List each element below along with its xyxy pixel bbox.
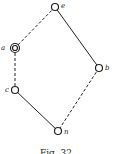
edge-c-n — [15, 90, 58, 131]
label-a: a — [1, 44, 5, 52]
edge-e-a — [15, 7, 55, 48]
node-c — [12, 87, 19, 94]
node-e — [52, 4, 59, 11]
label-b: b — [105, 64, 110, 72]
label-e: e — [61, 2, 65, 10]
node-a-inner — [13, 46, 18, 51]
edge-b-n — [58, 68, 99, 131]
label-n: n — [64, 128, 69, 136]
node-n — [55, 128, 62, 135]
lattice-diagram: e a b c n Fig. 32 — [0, 0, 115, 154]
figure-caption: Fig. 32 — [40, 148, 72, 154]
edge-e-b — [55, 7, 99, 68]
node-b — [96, 65, 103, 72]
label-c: c — [5, 86, 9, 94]
